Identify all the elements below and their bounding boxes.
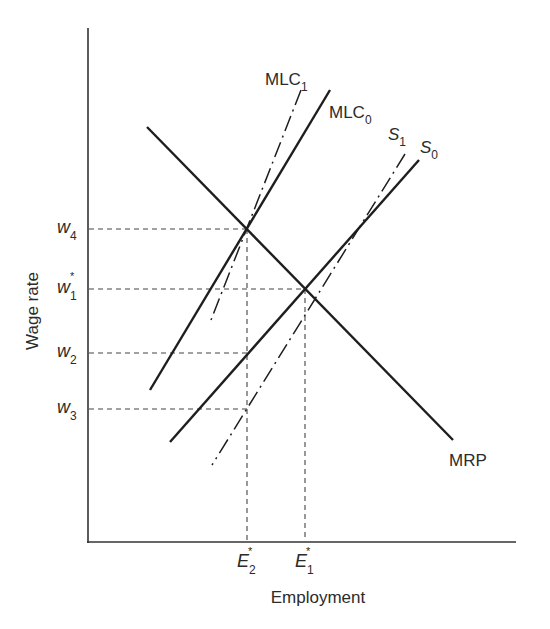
- label-w4: w4: [57, 217, 77, 243]
- label-mlc0: MLC0: [329, 103, 372, 127]
- x-axis-title: Employment: [271, 588, 366, 607]
- label-E2star: E2: [237, 551, 256, 577]
- label-E1star: E1: [295, 551, 314, 577]
- label-w1star-sup: *: [70, 270, 75, 282]
- curve-s0: [170, 160, 419, 442]
- diagram-canvas: MLC1 MLC0 S1 S0 MRP w4 w1 * w2 w3 E2 * E…: [0, 0, 550, 629]
- curve-s1: [212, 154, 405, 465]
- label-E1star-sup: *: [306, 545, 311, 557]
- label-s0: S0: [420, 138, 438, 162]
- y-axis-title: Wage rate: [23, 272, 42, 350]
- label-mrp: MRP: [449, 451, 487, 470]
- label-E2star-sup: *: [248, 545, 253, 557]
- label-s1: S1: [388, 125, 406, 149]
- curve-mlc0: [150, 90, 330, 390]
- label-w3: w3: [57, 397, 77, 423]
- label-mlc1: MLC1: [265, 70, 308, 94]
- label-w2: w2: [57, 341, 77, 367]
